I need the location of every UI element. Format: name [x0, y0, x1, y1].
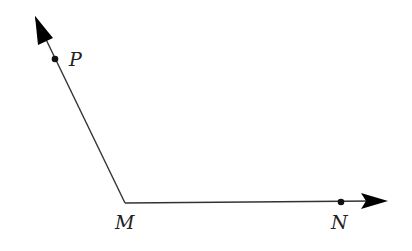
ray-mp-line	[40, 27, 125, 203]
ray-mn-line	[125, 201, 372, 203]
label-m: M	[114, 211, 135, 233]
ray-mp-arrowhead-body-icon	[35, 16, 53, 45]
point-n	[338, 199, 345, 206]
point-p	[52, 56, 59, 63]
angle-diagram: P M N	[0, 0, 412, 251]
label-p: P	[68, 48, 83, 70]
label-n: N	[330, 211, 349, 233]
